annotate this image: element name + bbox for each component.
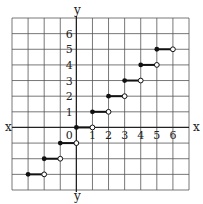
step-segment	[138, 63, 159, 68]
x-tick-label: 2	[105, 129, 112, 142]
step-segment	[122, 78, 143, 83]
closed-endpoint-dot	[58, 141, 63, 146]
x-axis-label-left: x	[5, 120, 12, 134]
y-tick-label: 6	[66, 28, 73, 41]
tick-labels: 0123456123456	[66, 28, 177, 143]
x-tick-label: 1	[89, 129, 96, 142]
step-function-graph: 0123456123456 x x y y	[0, 0, 203, 204]
open-endpoint-circle	[106, 109, 111, 114]
y-axis-label-bottom: y	[73, 189, 81, 203]
closed-endpoint-dot	[154, 47, 159, 52]
closed-endpoint-dot	[42, 156, 47, 161]
x-tick-label: 5	[153, 129, 160, 142]
step-segment	[90, 109, 111, 114]
grid	[12, 18, 189, 190]
open-endpoint-circle	[42, 172, 47, 177]
y-tick-label: 1	[66, 106, 73, 119]
open-endpoint-circle	[74, 141, 79, 146]
open-endpoint-circle	[58, 156, 63, 161]
x-tick-label: 6	[169, 129, 176, 142]
x-tick-label: 4	[137, 129, 144, 142]
y-tick-label: 2	[66, 90, 73, 103]
open-endpoint-circle	[138, 78, 143, 83]
closed-endpoint-dot	[106, 94, 111, 99]
y-tick-label: 4	[66, 59, 73, 72]
step-segment	[154, 47, 175, 52]
y-tick-label: 3	[66, 75, 73, 88]
step-segment	[106, 94, 127, 99]
x-tick-label: 0	[66, 129, 73, 142]
open-endpoint-circle	[154, 63, 159, 68]
open-endpoint-circle	[90, 125, 95, 130]
y-axis-label-top: y	[73, 3, 81, 17]
x-tick-label: 3	[121, 129, 128, 142]
closed-endpoint-dot	[74, 125, 79, 130]
closed-endpoint-dot	[26, 172, 31, 177]
open-endpoint-circle	[171, 47, 176, 52]
y-tick-label: 5	[66, 43, 73, 56]
step-segment	[74, 125, 95, 130]
axes	[12, 16, 189, 192]
step-segment	[26, 172, 47, 177]
open-endpoint-circle	[122, 94, 127, 99]
closed-endpoint-dot	[122, 78, 127, 83]
step-segment	[42, 156, 63, 161]
closed-endpoint-dot	[138, 63, 143, 68]
x-axis-label-right: x	[193, 120, 200, 134]
closed-endpoint-dot	[90, 109, 95, 114]
